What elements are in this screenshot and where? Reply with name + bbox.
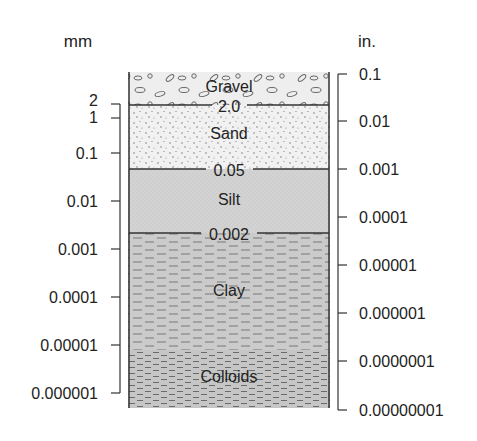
- right-tick-label: 0.00000001: [359, 402, 444, 419]
- right-tick-label: 0.001: [359, 161, 399, 178]
- left-tick-label: 1: [89, 109, 98, 126]
- right-tick-label: 0.00001: [359, 257, 417, 274]
- layer-label-sand: Sand: [210, 125, 247, 142]
- boundary-label-0-05mm: 0.05: [213, 162, 244, 179]
- right-tick-label: 0.0000001: [359, 353, 435, 370]
- left-tick-label: 0.0001: [49, 289, 98, 306]
- left-tick-label: 0.00001: [40, 337, 98, 354]
- left-tick-label: 0.001: [58, 241, 98, 258]
- right-tick-label: 0.01: [359, 113, 390, 130]
- boundary-label-0-002mm: 0.002: [209, 226, 249, 243]
- layer-label-clay: Clay: [213, 282, 245, 299]
- soil-particle-size-diagram: mm in. 2.0 0.05 0.002 Gravel Sand Silt C…: [0, 0, 477, 441]
- layer-label-colloids: Colloids: [201, 368, 258, 385]
- boundary-label-2mm: 2.0: [218, 98, 240, 115]
- left-tick-label: 2: [89, 92, 98, 109]
- layer-label-silt: Silt: [218, 191, 241, 208]
- left-axis-mm: 2 1 0.1 0.01 0.001 0.0001 0.00001 0.0000…: [31, 92, 120, 402]
- left-tick-label: 0.01: [67, 193, 98, 210]
- right-tick-label: 0.0001: [359, 209, 408, 226]
- right-axis-unit-label: in.: [358, 32, 376, 51]
- left-tick-label: 0.1: [76, 145, 98, 162]
- layer-label-gravel: Gravel: [205, 78, 252, 95]
- left-tick-label: 0.000001: [31, 385, 98, 402]
- right-tick-label: 0.1: [359, 66, 381, 83]
- left-axis-unit-label: mm: [64, 32, 92, 51]
- right-tick-label: 0.000001: [359, 305, 426, 322]
- right-axis-inches: 0.1 0.01 0.001 0.0001 0.00001 0.000001 0…: [338, 66, 444, 419]
